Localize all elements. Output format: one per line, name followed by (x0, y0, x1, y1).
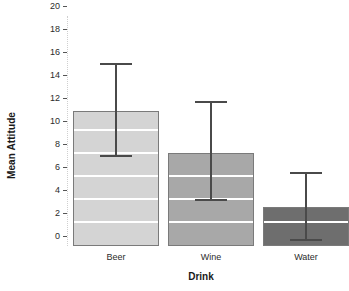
error-bar-stem (210, 103, 212, 201)
gridline (74, 175, 158, 177)
bar-group (73, 16, 159, 246)
gridline (74, 221, 158, 223)
y-tick-label: 8 (46, 139, 68, 149)
y-tick-label: 6 (46, 162, 68, 172)
bar-group (263, 16, 349, 246)
x-tick-label: Beer (73, 252, 159, 262)
error-bar-stem (115, 65, 117, 157)
error-bar-cap-lower (100, 155, 132, 157)
error-bar-cap-upper (290, 172, 322, 174)
y-tick-label: 20 (46, 1, 68, 11)
x-tick-label: Wine (168, 252, 254, 262)
error-bar-cap-upper (100, 63, 132, 65)
y-tick-label: 4 (46, 185, 68, 195)
bar-group (168, 16, 254, 246)
error-bar-cap-lower (195, 199, 227, 201)
x-axis-title: Drink (68, 271, 334, 282)
y-tick-label: 10 (46, 116, 68, 126)
gridline (74, 198, 158, 200)
error-bar-stem (305, 174, 307, 242)
y-tick-label: 2 (46, 208, 68, 218)
plot-area: 02468101214161820 (68, 16, 338, 246)
y-tick-label: 14 (46, 70, 68, 80)
y-tick-label: 16 (46, 47, 68, 57)
error-bar-cap-lower (290, 239, 322, 241)
y-tick-label: 18 (46, 24, 68, 34)
y-tick-label: 12 (46, 93, 68, 103)
y-tick-label: 0 (46, 231, 68, 241)
error-bar-cap-upper (195, 101, 227, 103)
x-tick-label: Water (263, 252, 349, 262)
gridline (169, 221, 253, 223)
y-axis-title: Mean Attitude (0, 0, 22, 291)
